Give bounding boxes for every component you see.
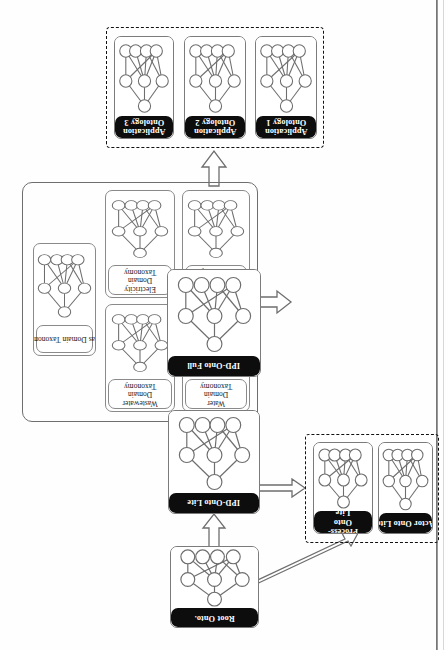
ontology-label-ipd-onto-full: IPD-Onto Full [168, 356, 260, 376]
ontology-box-ipd-onto-lite[interactable]: IPD-Onto Lite [168, 410, 260, 514]
concept-network-icon [169, 411, 259, 493]
ontology-box-ipd-onto-full[interactable]: IPD-Onto Full [167, 269, 261, 377]
concept-network-icon [185, 37, 245, 116]
concept-network-icon [256, 37, 316, 116]
concept-network-icon [379, 443, 432, 513]
ontology-graph-application-ontology-1 [256, 37, 316, 116]
figure-rotation-wrapper: Gas Domain Taxonomy [0, 0, 448, 650]
arrow-full-to-application-ontologies [202, 151, 226, 186]
ontology-label-application-ontology-3-text: Application Ontology 3 [123, 118, 166, 137]
taxonomy-label-electricity-text: Electricity Domain Taxonomy [124, 267, 156, 293]
ontology-box-root-onto[interactable]: Root Onto. [170, 546, 259, 628]
ontology-label-application-ontology-2: Application Ontology 2 [185, 116, 245, 138]
ontology-label-application-ontology-1-text: Application Ontology 1 [265, 118, 308, 137]
concept-network-icon [115, 37, 173, 116]
ontology-box-application-ontology-2[interactable]: Application Ontology 2 [184, 36, 246, 139]
ontology-graph-process-onto-lite [314, 443, 372, 511]
taxonomy-graph-telecom [183, 191, 249, 263]
ontology-label-process-onto-lite-text: Process-Onto Lite [328, 508, 358, 534]
taxonomy-graph-wastewater [106, 305, 174, 377]
concept-network-icon [314, 443, 372, 511]
taxonomy-box-wastewater[interactable]: Wastewater Domain Taxonomy [105, 304, 175, 412]
ontology-label-application-ontology-3: Application Ontology 3 [115, 116, 173, 138]
taxonomy-label-gas: Gas Domain Taxonomy [36, 325, 93, 353]
ontology-label-ipd-onto-lite-text: IPD-Onto Lite [188, 498, 241, 507]
ontology-graph-ipd-onto-full [168, 270, 260, 356]
concept-network-icon [106, 305, 174, 377]
ontology-box-actor-onto-lite[interactable]: Actor Onto Lite [378, 442, 433, 534]
ontology-label-ipd-onto-full-text: IPD-Onto Full [188, 361, 241, 370]
concept-network-icon [171, 547, 258, 608]
concept-network-icon [106, 191, 174, 263]
taxonomy-label-wastewater-text: Wastewater Domain Taxonomy [122, 381, 157, 407]
taxonomy-label-wastewater: Wastewater Domain Taxonomy [108, 379, 172, 409]
ontology-label-ipd-onto-lite: IPD-Onto Lite [169, 493, 259, 513]
scanned-page: Gas Domain Taxonomy [0, 0, 448, 650]
ontology-label-application-ontology-1: Application Ontology 1 [256, 116, 316, 138]
ontology-label-root-onto: Root Onto. [171, 608, 258, 627]
concept-network-icon [168, 270, 260, 356]
ontology-box-application-ontology-1[interactable]: Application Ontology 1 [255, 36, 317, 139]
taxonomy-graph-electricity [106, 191, 174, 263]
ontology-graph-root-onto [171, 547, 258, 608]
arrow-taxonomies-to-full [258, 291, 291, 313]
ontology-graph-application-ontology-3 [115, 37, 173, 116]
ontology-label-application-ontology-2-text: Application Ontology 2 [194, 118, 237, 137]
ontology-graph-application-ontology-2 [185, 37, 245, 116]
arrow-root-to-lite [203, 514, 225, 547]
concept-network-icon [183, 191, 249, 263]
ontology-label-process-onto-lite: Process-Onto Lite [314, 511, 372, 533]
ontology-graph-ipd-onto-lite [169, 411, 259, 493]
ontology-architecture-diagram: Gas Domain Taxonomy [0, 0, 448, 650]
taxonomy-label-electricity: Electricity Domain Taxonomy [108, 265, 172, 295]
ontology-label-actor-onto-lite-text: Actor Onto Lite [378, 518, 433, 527]
ontology-box-process-onto-lite[interactable]: Process-Onto Lite [313, 442, 373, 534]
taxonomy-box-electricity[interactable]: Electricity Domain Taxonomy [105, 190, 175, 298]
ontology-label-actor-onto-lite: Actor Onto Lite [379, 513, 432, 533]
taxonomy-box-gas[interactable]: Gas Domain Taxonomy [33, 243, 96, 356]
taxonomy-label-water-text: Water Domain Taxonomy [200, 381, 232, 407]
taxonomy-graph-gas [34, 244, 95, 323]
ontology-label-root-onto-text: Root Onto. [194, 613, 234, 622]
ontology-box-application-ontology-3[interactable]: Application Ontology 3 [114, 36, 174, 139]
taxonomy-label-gas-text: Gas Domain Taxonomy [33, 335, 96, 344]
taxonomy-label-water: Water Domain Taxonomy [185, 379, 247, 409]
ontology-graph-actor-onto-lite [379, 443, 432, 513]
concept-network-icon [34, 244, 95, 323]
